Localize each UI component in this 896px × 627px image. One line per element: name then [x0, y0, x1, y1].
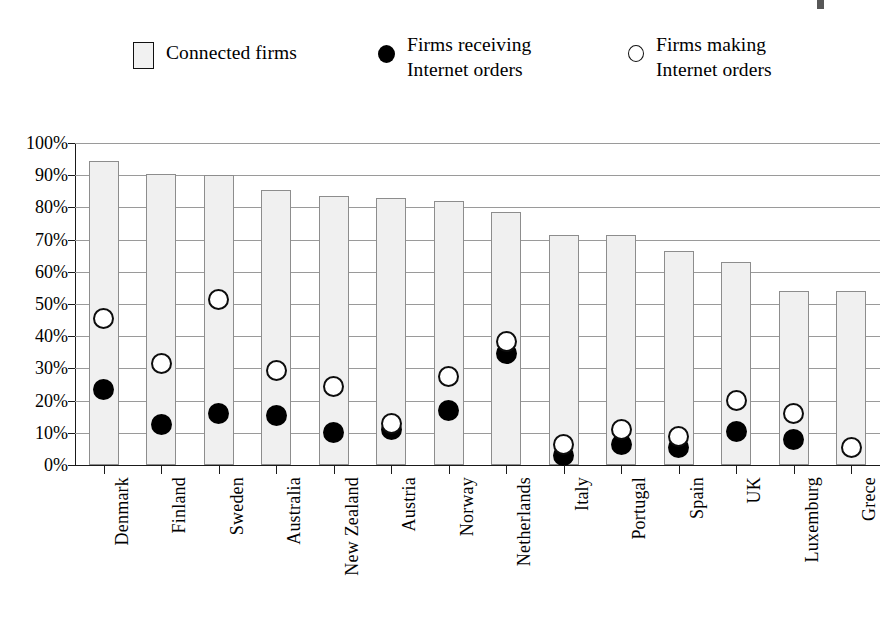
x-axis-tick-mark [391, 465, 392, 474]
hollow-circle-marker [266, 360, 287, 381]
gridline [75, 272, 880, 273]
gridline [75, 433, 880, 434]
x-axis-tick-mark [794, 465, 795, 474]
y-axis-tick-label: 10% [6, 424, 68, 442]
x-axis-tick-mark [104, 465, 105, 474]
hollow-circle-marker [611, 419, 632, 440]
y-axis-tick-label: 30% [6, 359, 68, 377]
x-axis-tick-label: Australia [285, 477, 303, 545]
bar-chart: 100%90%80%70%60%50%40%30%20%10%0% Denmar… [0, 0, 896, 627]
x-axis-tick-label: Spain [688, 477, 706, 519]
gridline [75, 401, 880, 402]
gridline [75, 240, 880, 241]
hollow-circle-marker [208, 289, 229, 310]
y-axis-tick-label: 100% [6, 134, 68, 152]
filled-circle-marker [783, 429, 804, 450]
x-axis-tick-label: Netherlands [515, 477, 533, 566]
x-axis-tick-mark [564, 465, 565, 474]
x-axis-tick-label: Luxemburg [803, 477, 821, 562]
hollow-circle-marker [151, 353, 172, 374]
x-axis-tick-label: New Zealand [343, 477, 361, 576]
gridline [75, 336, 880, 337]
y-axis-tick-label: 0% [6, 456, 68, 474]
hollow-circle-marker [323, 376, 344, 397]
x-axis-tick-mark [219, 465, 220, 474]
x-axis-tick-label: Finland [170, 477, 188, 533]
x-axis-tick-label: Sweden [228, 477, 246, 535]
filled-circle-marker [93, 379, 114, 400]
x-axis-tick-mark [736, 465, 737, 474]
hollow-circle-marker [841, 437, 862, 458]
filled-circle-marker [266, 405, 287, 426]
x-axis-tick-label: Denmark [113, 477, 131, 545]
hollow-circle-marker [726, 390, 747, 411]
x-axis-tick-label: Portugal [630, 477, 648, 540]
x-axis-tick-label: UK [745, 477, 763, 503]
hollow-circle-marker [668, 426, 689, 447]
x-axis-tick-mark [621, 465, 622, 474]
gridline [75, 304, 880, 305]
hollow-circle-marker [381, 413, 402, 434]
x-axis-tick-mark [506, 465, 507, 474]
y-axis-tick-label: 80% [6, 198, 68, 216]
x-axis-tick-mark [276, 465, 277, 474]
y-axis-tick-label: 50% [6, 295, 68, 313]
x-axis-tick-mark [449, 465, 450, 474]
y-axis-tick-label: 90% [6, 166, 68, 184]
gridline [75, 465, 880, 466]
y-axis-tick-label: 70% [6, 231, 68, 249]
x-axis-tick-mark [851, 465, 852, 474]
y-axis-tick-label: 20% [6, 392, 68, 410]
plot-area [75, 143, 880, 465]
x-axis-tick-mark [679, 465, 680, 474]
x-axis-tick-mark [334, 465, 335, 474]
bar-italy [549, 235, 579, 465]
x-axis-tick-label: Austria [400, 477, 418, 531]
bar-norway [434, 201, 464, 465]
hollow-circle-marker [553, 434, 574, 455]
filled-circle-marker [726, 421, 747, 442]
gridline [75, 368, 880, 369]
hollow-circle-marker [496, 331, 517, 352]
gridline [75, 175, 880, 176]
x-axis-tick-label: Grece [860, 477, 878, 521]
filled-circle-marker [438, 400, 459, 421]
gridline [75, 143, 880, 144]
x-axis-tick-label: Norway [458, 477, 476, 536]
x-axis-tick-mark [161, 465, 162, 474]
y-axis-tick-label: 40% [6, 327, 68, 345]
gridline [75, 207, 880, 208]
y-axis: 100%90%80%70%60%50%40%30%20%10%0% [0, 143, 68, 465]
x-axis-tick-label: Italy [573, 477, 591, 511]
y-axis-tick-label: 60% [6, 263, 68, 281]
filled-circle-marker [151, 414, 172, 435]
